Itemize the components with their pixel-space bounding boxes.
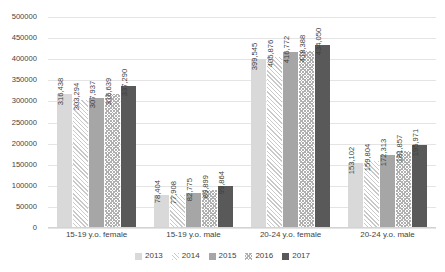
- bar-value-label: 316,438: [57, 78, 65, 105]
- bar-slot: 416,772: [283, 17, 298, 228]
- bar-slot: 434,050: [315, 17, 330, 228]
- bar-2017-15-19-y-o-male[interactable]: 99,864: [218, 186, 233, 228]
- bar-value-label: 337,290: [121, 69, 129, 96]
- bar-slot: 195,971: [412, 17, 427, 228]
- bar-2013-20-24-y-o-male[interactable]: 153,102: [348, 163, 363, 228]
- bar-2017-15-19-y-o-female[interactable]: 337,290: [121, 86, 136, 228]
- legend-label: 2016: [255, 252, 273, 260]
- legend-swatch-icon: [135, 253, 142, 260]
- legend-swatch-icon: [172, 253, 179, 260]
- bar-slot: 316,438: [57, 17, 72, 228]
- bar-slot: 89,899: [202, 17, 217, 228]
- bar-2013-15-19-y-o-female[interactable]: 316,438: [57, 94, 72, 228]
- bar-slot: 181,857: [396, 17, 411, 228]
- y-axis-tick-label: 450000: [0, 34, 37, 42]
- bar-value-label: 172,313: [380, 139, 388, 166]
- bar-2014-20-24-y-o-male[interactable]: 159,804: [364, 161, 379, 228]
- bar-value-label: 399,545: [251, 43, 259, 70]
- bar-2014-15-19-y-o-male[interactable]: 77,908: [170, 195, 185, 228]
- bar-2014-15-19-y-o-female[interactable]: 303,294: [73, 100, 88, 228]
- bar-slot: 172,313: [380, 17, 395, 228]
- bar-2017-20-24-y-o-male[interactable]: 195,971: [412, 145, 427, 228]
- bar-value-label: 181,857: [396, 135, 404, 162]
- legend-label: 2013: [145, 252, 163, 260]
- bar-2015-15-19-y-o-male[interactable]: 82,775: [186, 193, 201, 228]
- legend-swatch-icon: [209, 253, 216, 260]
- bar-slot: 337,290: [121, 17, 136, 228]
- bar-2016-20-24-y-o-female[interactable]: 418,388: [299, 51, 314, 228]
- y-axis-tick-label: 500000: [0, 13, 37, 21]
- bar-slot: 82,775: [186, 17, 201, 228]
- bar-2016-15-19-y-o-male[interactable]: 89,899: [202, 190, 217, 228]
- plot-area: 5000004500004000003500003000002500002000…: [48, 17, 436, 228]
- bar-value-label: 405,876: [267, 40, 275, 67]
- bar-slot: 399,545: [251, 17, 266, 228]
- bar-value-label: 153,102: [348, 147, 356, 174]
- y-axis-tick-label: 300000: [0, 98, 37, 106]
- category-axis-labels: 15-19 y.o. female15-19 y.o. male20-24 y.…: [48, 230, 436, 240]
- bar-group: 316,438303,294307,937316,639337,290: [48, 17, 145, 228]
- bar-2013-20-24-y-o-female[interactable]: 399,545: [251, 59, 266, 228]
- legend-label: 2017: [292, 252, 310, 260]
- bar-slot: 77,908: [170, 17, 185, 228]
- bar-value-label: 416,772: [283, 35, 291, 62]
- bar-value-label: 78,404: [154, 180, 162, 203]
- bar-slot: 307,937: [89, 17, 104, 228]
- legend-item-2013[interactable]: 2013: [135, 252, 163, 260]
- bar-value-label: 77,908: [170, 181, 178, 204]
- bar-2015-20-24-y-o-male[interactable]: 172,313: [380, 155, 395, 228]
- legend-swatch-icon: [282, 253, 289, 260]
- bar-group: 399,545405,876416,772418,388434,050: [242, 17, 339, 228]
- category-label: 20-24 y.o. female: [242, 230, 339, 240]
- bar-2016-20-24-y-o-male[interactable]: 181,857: [396, 151, 411, 228]
- bar-value-label: 434,050: [315, 28, 323, 55]
- bar-value-label: 303,294: [73, 83, 81, 110]
- bar-2015-15-19-y-o-female[interactable]: 307,937: [89, 98, 104, 228]
- legend-item-2016[interactable]: 2016: [245, 252, 273, 260]
- y-axis-tick-label: 400000: [0, 56, 37, 64]
- gridline: [48, 228, 436, 229]
- legend-item-2015[interactable]: 2015: [209, 252, 237, 260]
- bar-chart: 5000004500004000003500003000002500002000…: [0, 0, 445, 272]
- y-axis-tick-label: 0: [0, 224, 37, 232]
- bar-group: 78,40477,90882,77589,89999,864: [145, 17, 242, 228]
- bar-value-label: 99,864: [218, 171, 226, 194]
- legend-item-2017[interactable]: 2017: [282, 252, 310, 260]
- bar-value-label: 307,937: [89, 81, 97, 108]
- bar-slot: 159,804: [364, 17, 379, 228]
- bar-2017-20-24-y-o-female[interactable]: 434,050: [315, 45, 330, 228]
- bar-value-label: 159,804: [364, 144, 372, 171]
- y-axis-tick-label: 250000: [0, 119, 37, 127]
- bar-2016-15-19-y-o-female[interactable]: 316,639: [105, 94, 120, 228]
- bar-value-label: 418,388: [299, 35, 307, 62]
- bar-slot: 153,102: [348, 17, 363, 228]
- y-axis-tick-label: 100000: [0, 182, 37, 190]
- y-axis-tick-label: 200000: [0, 140, 37, 148]
- bar-slot: 405,876: [267, 17, 282, 228]
- legend-swatch-icon: [245, 253, 252, 260]
- bar-value-label: 195,971: [412, 129, 420, 156]
- legend-label: 2014: [182, 252, 200, 260]
- bar-slot: 316,639: [105, 17, 120, 228]
- category-label: 15-19 y.o. female: [48, 230, 145, 240]
- category-label: 15-19 y.o. male: [145, 230, 242, 240]
- bar-group: 153,102159,804172,313181,857195,971: [339, 17, 436, 228]
- x-axis-line: [48, 227, 436, 228]
- bar-2013-15-19-y-o-male[interactable]: 78,404: [154, 195, 169, 228]
- bar-slot: 99,864: [218, 17, 233, 228]
- legend-label: 2015: [219, 252, 237, 260]
- bar-slot: 418,388: [299, 17, 314, 228]
- bar-value-label: 316,639: [105, 78, 113, 105]
- category-label: 20-24 y.o. male: [339, 230, 436, 240]
- y-axis-tick-label: 50000: [0, 203, 37, 211]
- bar-2014-20-24-y-o-female[interactable]: 405,876: [267, 57, 282, 228]
- bar-slot: 303,294: [73, 17, 88, 228]
- legend-item-2014[interactable]: 2014: [172, 252, 200, 260]
- chart-legend: 20132014201520162017: [0, 252, 445, 260]
- bar-value-label: 89,899: [202, 175, 210, 198]
- bar-slot: 78,404: [154, 17, 169, 228]
- bar-value-label: 82,775: [186, 178, 194, 201]
- bar-groups: 316,438303,294307,937316,639337,29078,40…: [48, 17, 436, 228]
- y-axis-tick-label: 350000: [0, 77, 37, 85]
- bar-2015-20-24-y-o-female[interactable]: 416,772: [283, 52, 298, 228]
